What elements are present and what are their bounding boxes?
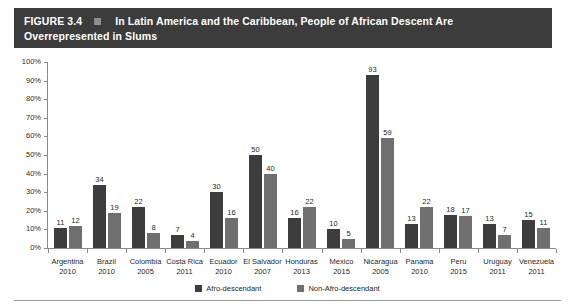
y-axis-tick-mark [44, 174, 48, 175]
x-axis-label: Honduras2013 [282, 257, 321, 277]
legend-item-afro-descendant[interactable]: Afro-descendant [195, 284, 261, 293]
y-axis-tick: 20% [0, 211, 48, 212]
bar-afro-descendant[interactable]: 11 [54, 228, 67, 248]
bar-non-afro-descendant[interactable]: 22 [420, 207, 433, 248]
y-axis-tick-mark [44, 118, 48, 119]
bar-non-afro-descendant[interactable]: 19 [108, 213, 121, 248]
bar-afro-descendant[interactable]: 15 [522, 220, 535, 248]
y-axis-tick-label: 60% [26, 131, 41, 140]
bar-non-afro-descendant[interactable]: 7 [498, 235, 511, 248]
x-axis-country-name: Venezuela [519, 257, 554, 266]
y-axis-tick-label: 30% [26, 187, 41, 196]
x-axis-country-name: Uruguay [483, 257, 511, 266]
bar-value-label: 22 [134, 197, 142, 206]
x-axis-tick-mark [87, 249, 88, 253]
x-axis-country-name: Honduras [285, 257, 318, 266]
x-axis-year: 2011 [165, 267, 204, 277]
x-axis-label: El Salvador2007 [243, 257, 282, 277]
x-axis-tick-mark [517, 249, 518, 253]
bar-value-label: 50 [251, 145, 259, 154]
x-axis-year: 2005 [126, 267, 165, 277]
bar-value-label: 93 [368, 65, 376, 74]
bar-group: 3419 [93, 62, 121, 248]
x-axis-country-name: Nicaragua [363, 257, 397, 266]
bar-group: 1622 [288, 62, 316, 248]
x-axis-label: Uruguay2011 [478, 257, 517, 277]
chart-plot-area: 0%10%20%30%40%50%60%70%80%90%100% 111234… [0, 52, 575, 307]
x-axis-tick-mark [126, 249, 127, 253]
bar-non-afro-descendant[interactable]: 16 [225, 218, 238, 248]
y-axis-tick: 30% [0, 192, 48, 193]
bar-non-afro-descendant[interactable]: 12 [69, 226, 82, 248]
figure-title-bar: FIGURE 3.4In Latin America and the Carib… [14, 8, 552, 48]
y-axis-tick: 0% [0, 248, 48, 249]
bar-value-label: 16 [290, 208, 298, 217]
bar-value-label: 5 [346, 229, 350, 238]
bar-afro-descendant[interactable]: 22 [132, 207, 145, 248]
x-axis-country-name: Mexico [330, 257, 354, 266]
y-axis-tick-mark [44, 192, 48, 193]
x-axis-label: Argentina2010 [48, 257, 87, 277]
bar-value-label: 11 [540, 218, 548, 227]
bar-afro-descendant[interactable]: 16 [288, 218, 301, 248]
x-axis-tick-mark [439, 249, 440, 253]
bar-group-bars: 1322 [405, 62, 433, 248]
bar-afro-descendant[interactable]: 13 [405, 224, 418, 248]
x-axis-country-name: Costa Rica [166, 257, 203, 266]
y-axis-tick-label: 70% [26, 113, 41, 122]
bar-non-afro-descendant[interactable]: 11 [537, 228, 550, 248]
bar-non-afro-descendant[interactable]: 8 [147, 233, 160, 248]
bar-value-label: 22 [422, 197, 430, 206]
bar-value-label: 13 [485, 214, 493, 223]
bar-group: 74 [171, 62, 199, 248]
bar-non-afro-descendant[interactable]: 17 [459, 216, 472, 248]
y-axis-tick-mark [44, 211, 48, 212]
x-axis-country-name: Argentina [51, 257, 83, 266]
bar-value-label: 7 [502, 225, 506, 234]
x-axis-country-name: El Salvador [243, 257, 281, 266]
legend-swatch-icon [195, 285, 202, 292]
bar-afro-descendant[interactable]: 13 [483, 224, 496, 248]
y-axis-tick: 80% [0, 99, 48, 100]
bar-value-label: 10 [329, 219, 337, 228]
x-axis-tick-mark [282, 249, 283, 253]
bar-non-afro-descendant[interactable]: 40 [264, 174, 277, 248]
x-axis-year: 2007 [243, 267, 282, 277]
bar-afro-descendant[interactable]: 30 [210, 192, 223, 248]
bar-afro-descendant[interactable]: 18 [444, 215, 457, 248]
y-axis-tick-label: 10% [26, 224, 41, 233]
bar-group: 1112 [54, 62, 82, 248]
x-axis-country-name: Panama [406, 257, 434, 266]
bar-afro-descendant[interactable]: 93 [366, 75, 379, 248]
bar-non-afro-descendant[interactable]: 22 [303, 207, 316, 248]
x-axis-year: 2005 [361, 267, 400, 277]
x-axis-year: 2010 [204, 267, 243, 277]
bar-group: 1817 [444, 62, 472, 248]
bar-group-bars: 1112 [54, 62, 82, 248]
bar-value-label: 16 [227, 208, 235, 217]
legend-item-non-afro-descendant[interactable]: Non-Afro-descendant [297, 284, 379, 293]
bar-value-label: 8 [151, 223, 155, 232]
x-axis-year: 2010 [400, 267, 439, 277]
bar-non-afro-descendant[interactable]: 5 [342, 239, 355, 248]
bar-group: 5040 [249, 62, 277, 248]
bar-non-afro-descendant[interactable]: 59 [381, 138, 394, 248]
bar-group-bars: 137 [483, 62, 511, 248]
bar-afro-descendant[interactable]: 10 [327, 229, 340, 248]
x-axis-tick-mark [243, 249, 244, 253]
x-axis-country-name: Colombia [130, 257, 162, 266]
x-axis-label: Peru2015 [439, 257, 478, 277]
x-axis-tick-mark [478, 249, 479, 253]
bar-non-afro-descendant[interactable]: 4 [186, 241, 199, 248]
bar-group: 137 [483, 62, 511, 248]
bar-afro-descendant[interactable]: 34 [93, 185, 106, 248]
figure-number: FIGURE 3.4 [24, 15, 82, 27]
bar-afro-descendant[interactable]: 7 [171, 235, 184, 248]
bar-afro-descendant[interactable]: 50 [249, 155, 262, 248]
bar-group-bars: 228 [132, 62, 160, 248]
x-axis-tick-mark [48, 249, 49, 253]
x-axis-tick-mark [361, 249, 362, 253]
bar-group-bars: 9359 [366, 62, 394, 248]
figure-title-line-2: Overrepresented in Slums [24, 29, 542, 44]
y-axis-tick-label: 50% [26, 150, 41, 159]
